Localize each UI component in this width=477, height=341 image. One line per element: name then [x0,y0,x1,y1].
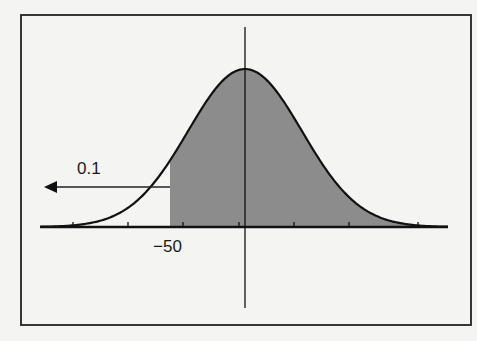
arrow-left-icon [44,181,57,193]
tail-area-label: 0.1 [77,159,101,179]
cutoff-label: −50 [153,237,182,257]
normal-curve-chart [0,0,477,341]
